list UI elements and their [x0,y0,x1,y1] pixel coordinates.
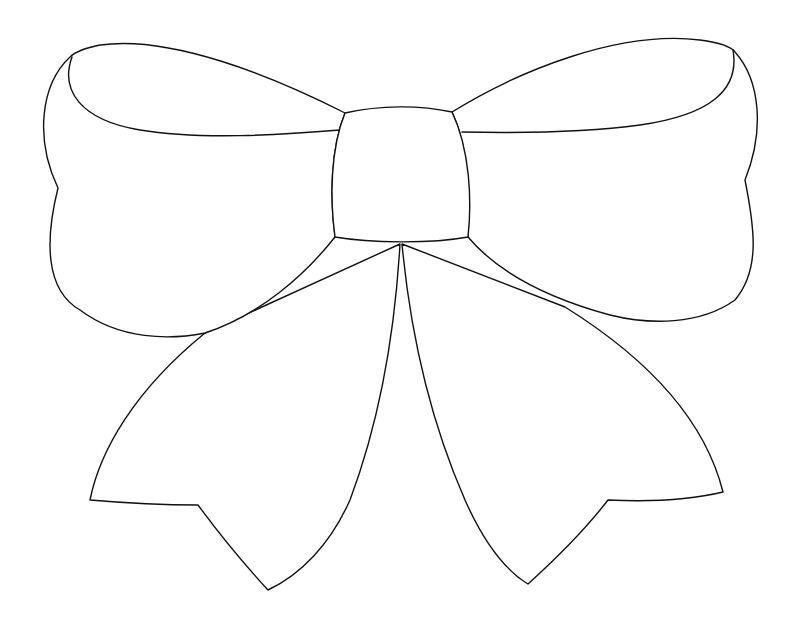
right-loop [452,38,757,321]
knot [332,107,470,242]
bow-drawing: Bow outline drawing [0,0,795,632]
